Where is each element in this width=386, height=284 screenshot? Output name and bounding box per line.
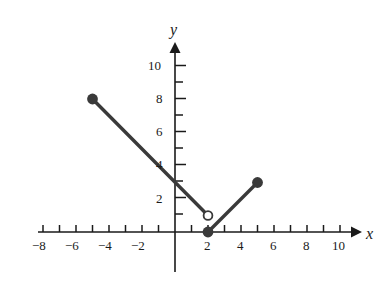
y-tick-label: 6: [156, 125, 163, 138]
plot-area: [0, 0, 386, 284]
closed-point-right-start: [203, 227, 214, 238]
closed-point-left-start: [87, 94, 98, 105]
x-tick-label: −8: [32, 239, 46, 252]
x-tick-label: 8: [303, 239, 310, 252]
y-tick-label: 4: [156, 158, 163, 171]
y-tick-label: 10: [148, 59, 161, 72]
coordinate-graph-figure: −8 −6 −4 −2 2 4 6 8 10 10 8 6 4 2 y x: [0, 0, 386, 284]
x-tick-label: 6: [270, 239, 277, 252]
open-point-discontinuity: [204, 211, 213, 220]
y-axis-arrow-icon: [170, 42, 181, 53]
segment-left-descending: [93, 99, 209, 216]
x-tick-label: 2: [204, 239, 211, 252]
x-tick-label: 10: [332, 239, 345, 252]
x-axis-label: x: [366, 226, 373, 242]
y-axis-label: y: [170, 22, 177, 38]
x-tick-label: 4: [237, 239, 244, 252]
y-tick-label: 8: [156, 92, 163, 105]
segment-right-ascending: [208, 183, 258, 233]
x-tick-label: −6: [65, 239, 79, 252]
x-axis-arrow-icon: [351, 227, 362, 238]
closed-point-right-end: [252, 177, 263, 188]
y-tick-label: 2: [156, 192, 163, 205]
x-axis-ticks: [43, 225, 340, 232]
x-tick-label: −4: [98, 239, 112, 252]
x-tick-label: −2: [131, 239, 145, 252]
